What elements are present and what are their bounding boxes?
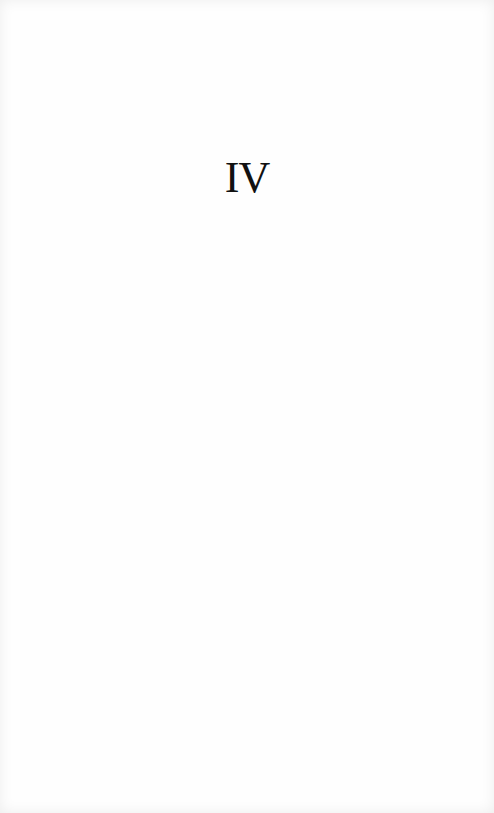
- part-number-heading: IV: [0, 149, 494, 207]
- book-page: IV: [0, 0, 494, 813]
